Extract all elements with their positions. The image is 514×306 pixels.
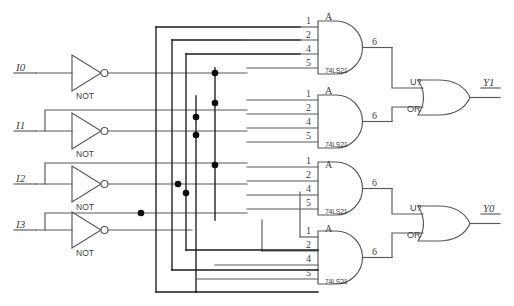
and-gate-2-pin-2: 2 [306, 102, 311, 113]
input-label-i1: I1 [15, 119, 25, 131]
and-gate-2-ic-label: 74LS21 [325, 141, 348, 148]
input-label-i0: I0 [15, 61, 26, 73]
junction-dot [212, 70, 219, 77]
and-gate-3-section: A [325, 159, 333, 170]
and-gate-3-pin-5: 5 [306, 197, 311, 208]
not-gate-0 [72, 55, 108, 91]
junction-dot [212, 100, 219, 107]
and-gate-1-output-pin: 6 [372, 36, 377, 47]
not-gate-1-label: NOT [76, 149, 94, 159]
or-gate-y1-ref: U? [410, 77, 422, 87]
not-gate-1 [72, 113, 108, 149]
and-gate-1-ic-label: 74LS21 [325, 67, 348, 74]
and-gate-4 [318, 231, 392, 284]
junction-dot [138, 210, 145, 217]
and-gate-3-pin-4: 4 [306, 183, 311, 194]
not-gate-3 [72, 212, 108, 248]
output-label-underlines [481, 88, 500, 214]
not-gate-3-label: NOT [76, 248, 94, 258]
junction-dot [175, 181, 182, 188]
or-gate-y1-type: OR [407, 104, 421, 114]
output-label-y0: Y0 [483, 202, 495, 214]
and-gate-4-pin-1: 1 [306, 225, 311, 236]
inverter-output-wires [108, 73, 247, 230]
and-gate-4-ic-label: 74LS21 [325, 278, 348, 285]
and-gate-4-pin-4: 4 [306, 253, 311, 264]
vertical-routing-bus [156, 27, 215, 292]
and-gate-4-input-wires [196, 192, 318, 279]
and-gate-3-output-pin: 6 [372, 177, 377, 188]
input-label-underlines [14, 73, 36, 230]
not-gate-2-label: NOT [76, 202, 94, 212]
or-gate-y0-input-wires [392, 189, 423, 258]
junction-dot [193, 132, 200, 139]
and-gate-4-pin-2: 2 [306, 239, 311, 250]
and-gate-1-pin-2: 2 [306, 29, 311, 40]
output-label-y1: Y1 [483, 76, 495, 88]
and-gate-1-pin-5: 5 [306, 57, 311, 68]
and-gate-2-pin-5: 5 [306, 130, 311, 141]
and-gate-1-section: A [325, 11, 333, 22]
input-wires [36, 73, 72, 230]
or-gate-y0-type: OR [407, 230, 421, 240]
lower-bus-returns [156, 250, 318, 292]
and-gate-2-output-pin: 6 [372, 110, 377, 121]
junction-dot [193, 114, 200, 121]
and-gate-4-section: A [325, 223, 333, 234]
and-gate-2-section: A [325, 85, 333, 96]
circuit-diagram-canvas: I0 I1 I2 I3 NOT NOT NOT NOT 1 2 4 5 A 74… [0, 0, 514, 306]
input-label-i2: I2 [15, 172, 26, 184]
or-gate-y0-ref: U? [410, 203, 422, 213]
true-signal-taps [45, 110, 247, 230]
junction-dot [212, 162, 219, 169]
and-gate-3-pin-2: 2 [306, 169, 311, 180]
and-gate-4-pin-5: 5 [306, 267, 311, 278]
schematic-svg: I0 I1 I2 I3 NOT NOT NOT NOT 1 2 4 5 A 74… [0, 0, 514, 306]
junction-dots [138, 70, 219, 217]
and-gate-3-pin-1: 1 [306, 155, 311, 166]
input-label-i3: I3 [15, 218, 26, 230]
and-gate-4-output-pin: 6 [372, 246, 377, 257]
junction-dot [183, 190, 190, 197]
not-gate-2 [72, 166, 108, 202]
and-gate-2-pin-4: 4 [306, 116, 311, 127]
and-gate-3-ic-label: 74LS21 [325, 208, 348, 215]
and-gate-2-pin-1: 1 [306, 88, 311, 99]
not-gate-0-label: NOT [76, 91, 94, 101]
and-gate-1-pin-1: 1 [306, 15, 311, 26]
and-gate-1-pin-4: 4 [306, 43, 311, 54]
